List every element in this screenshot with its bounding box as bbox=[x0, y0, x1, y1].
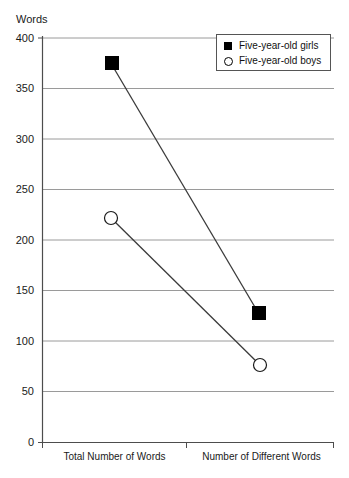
axis-lines bbox=[38, 36, 334, 448]
y-tick-label-400: 400 bbox=[0, 33, 34, 44]
data-point-girls-total bbox=[105, 56, 119, 70]
y-tick-label-150: 150 bbox=[0, 285, 34, 296]
plot-area bbox=[0, 0, 349, 478]
data-point-boys-total bbox=[105, 212, 118, 225]
series-five-year-old-boys bbox=[105, 212, 267, 372]
legend-label-girls: Five-year-old girls bbox=[239, 40, 318, 52]
data-point-boys-different bbox=[254, 359, 267, 372]
y-tick-label-50: 50 bbox=[0, 386, 34, 397]
y-tick-label-200: 200 bbox=[0, 235, 34, 246]
y-tick-label-0: 0 bbox=[0, 437, 34, 448]
y-tick-label-300: 300 bbox=[0, 134, 34, 145]
gridlines bbox=[42, 38, 334, 392]
open-circle-icon bbox=[222, 54, 235, 67]
x-tick-label-total-number-of-words: Total Number of Words bbox=[42, 451, 187, 463]
legend-item-girls: Five-year-old girls bbox=[222, 38, 326, 53]
legend-label-boys: Five-year-old boys bbox=[239, 55, 321, 67]
y-tick-label-100: 100 bbox=[0, 336, 34, 347]
data-point-girls-different bbox=[252, 306, 266, 320]
series-five-year-old-girls bbox=[105, 56, 266, 320]
chart-container: Words bbox=[0, 0, 349, 478]
x-tick-label-number-of-different-words: Number of Different Words bbox=[188, 451, 335, 463]
y-tick-label-350: 350 bbox=[0, 83, 34, 94]
filled-square-icon bbox=[222, 39, 235, 52]
legend: Five-year-old girls Five-year-old boys bbox=[216, 34, 331, 71]
legend-item-boys: Five-year-old boys bbox=[222, 53, 326, 68]
y-tick-label-250: 250 bbox=[0, 184, 34, 195]
